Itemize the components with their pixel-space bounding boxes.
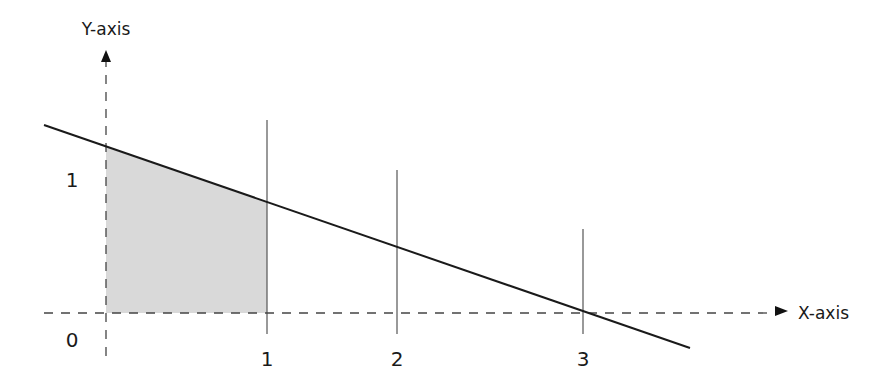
x-axis-arrow-icon	[775, 306, 788, 316]
y-axis-arrow-icon	[101, 50, 111, 62]
x-tick-3: 3	[577, 347, 590, 371]
y-tick-1: 1	[66, 168, 79, 192]
shaded-area	[106, 147, 267, 313]
y-tick-0: 0	[66, 328, 79, 352]
area-diagram: Y-axis X-axis 1 0 1 2 3	[0, 0, 880, 392]
y-axis-label: Y-axis	[81, 19, 131, 39]
x-tick-2: 2	[391, 347, 404, 371]
x-axis-label: X-axis	[798, 303, 849, 323]
x-tick-1: 1	[261, 347, 274, 371]
